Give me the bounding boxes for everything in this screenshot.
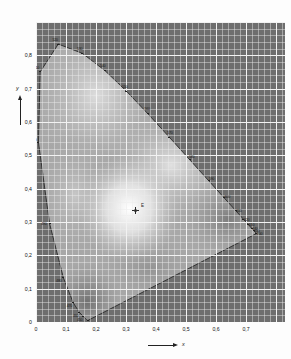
gridline-vertical [156, 22, 157, 322]
wavelength-label: 570 [167, 131, 172, 135]
wavelength-tick [251, 228, 253, 229]
wavelength-label: 580 [189, 155, 194, 159]
wavelength-tick [247, 224, 249, 225]
gridline-vertical [66, 22, 67, 322]
x-tick-label: 0,4 [146, 326, 166, 332]
wavelength-label: 610 [236, 209, 241, 213]
wavelength-tick [208, 180, 210, 181]
gridline-horizontal [36, 289, 285, 290]
x-tick-label: 0,3 [116, 326, 136, 332]
y-tick-label: 0,8 [14, 52, 32, 58]
wavelength-label: 470 [67, 304, 72, 308]
white-point-dot [134, 209, 137, 212]
wavelength-label: 450 [77, 318, 82, 322]
gridline-vertical [186, 22, 187, 322]
wavelength-label: 620 [244, 218, 249, 222]
y-tick-label: 0,4 [14, 186, 32, 192]
y-tick-label: 0,1 [14, 286, 32, 292]
wavelength-tick [253, 230, 255, 231]
x-axis-name: x [182, 341, 185, 347]
wavelength-label: 490 [41, 222, 46, 226]
gridline-horizontal [36, 155, 285, 156]
wavelength-tick [235, 210, 237, 211]
gridline-horizontal [36, 189, 285, 190]
x-tick-label: 0,7 [236, 326, 256, 332]
x-tick-label: 0,2 [86, 326, 106, 332]
gridline-horizontal [36, 89, 285, 90]
y-axis-arrow-line [20, 100, 21, 125]
wavelength-label: 520 [52, 38, 57, 42]
gridline-horizontal [36, 255, 285, 256]
wavelength-tick [147, 113, 149, 114]
wavelength-tick [39, 71, 41, 72]
wavelength-tick [104, 70, 106, 71]
wavelength-tick [82, 316, 84, 317]
wavelength-tick [37, 142, 39, 143]
gridline-horizontal [36, 55, 285, 56]
chromaticity-diagram-figure: 5205305405505605705805906006106206306406… [0, 0, 291, 359]
wavelength-label: 600 [225, 195, 230, 199]
wavelength-tick [78, 312, 80, 313]
y-axis-label: y [16, 92, 26, 126]
y-axis-arrow-head [18, 95, 22, 100]
wavelength-tick [189, 159, 191, 160]
wavelength-label: 560 [145, 107, 150, 111]
wavelength-label: 700 [257, 232, 262, 236]
wavelength-tick [87, 320, 89, 321]
y-tick-label: 0 [14, 319, 32, 325]
wavelength-label: 480 [56, 279, 61, 283]
wavelength-tick [168, 137, 170, 138]
gridline-horizontal [36, 22, 285, 23]
x-axis-arrow-head [173, 343, 178, 347]
y-tick-label: 0,2 [14, 252, 32, 258]
gridline-vertical [126, 22, 127, 322]
wavelength-tick [49, 223, 51, 224]
x-axis-label: x [148, 341, 194, 350]
x-axis-arrow-line [148, 345, 174, 346]
gridline-horizontal [36, 222, 285, 223]
wavelength-label: 530 [77, 47, 82, 51]
wavelength-tick [57, 44, 59, 45]
plot-area: 5205305405505605705805906006106206306406… [36, 22, 285, 322]
y-tick-label: 0,5 [14, 152, 32, 158]
wavelength-label: 540 [100, 64, 105, 68]
gridline-horizontal [36, 122, 285, 123]
white-point-marker [132, 207, 139, 214]
wavelength-tick [255, 233, 257, 234]
gridline-vertical [216, 22, 217, 322]
y-tick-label: 0,3 [14, 219, 32, 225]
wavelength-label: 510 [36, 66, 39, 70]
major-gridlines [36, 22, 285, 322]
wavelength-tick [81, 53, 83, 54]
x-tick-label: 0,1 [56, 326, 76, 332]
wavelength-tick [62, 277, 64, 278]
x-tick-label: 0,5 [176, 326, 196, 332]
wavelength-label: 550 [122, 85, 127, 89]
wavelength-tick [72, 302, 74, 303]
gridline-vertical [276, 22, 277, 322]
gridline-vertical [246, 22, 247, 322]
y-axis-name: y [16, 85, 19, 91]
gridline-vertical [96, 22, 97, 322]
wavelength-tick [223, 197, 225, 198]
wavelength-tick [125, 91, 127, 92]
x-tick-label: 0 [26, 326, 46, 332]
white-point-label: E [141, 203, 144, 208]
x-tick-label: 0,6 [206, 326, 226, 332]
wavelength-tick [242, 219, 244, 220]
